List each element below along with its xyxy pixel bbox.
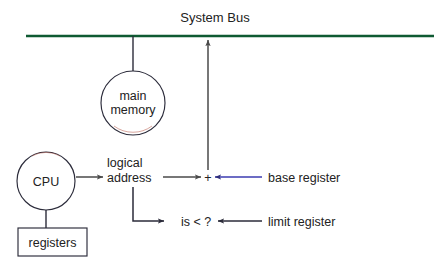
adder-label: + [204,171,211,185]
limit-register-group: limit register [218,215,335,229]
comparator-label: is < ? [181,215,211,229]
main-memory-group[interactable]: main memory [101,36,165,135]
base-register-label: base register [268,171,340,185]
adder-group: + [204,40,211,185]
system-bus-group: System Bus [26,10,434,36]
diagram-canvas: System Bus main memory CPU registers lo [0,0,446,272]
limit-register-label: limit register [268,215,335,229]
main-memory-label-line1: main [119,89,146,103]
logical-address-label-line2: address [107,171,151,185]
logical-address-to-comparator-elbow-arrow [133,187,164,221]
logical-address-group: logical address [107,156,151,185]
system-bus-label: System Bus [180,10,250,25]
base-register-group: base register [215,171,340,185]
cpu-group[interactable]: CPU [17,152,75,228]
registers-group[interactable]: registers [18,228,87,256]
main-memory-label-line2: memory [110,103,156,117]
logical-address-label-line1: logical [107,156,142,170]
registers-label: registers [29,236,77,250]
address-translation-diagram: System Bus main memory CPU registers lo [0,0,446,272]
cpu-label: CPU [33,175,59,189]
